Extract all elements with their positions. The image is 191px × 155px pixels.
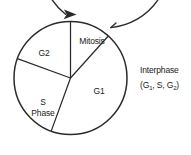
cell-cycle-diagram: Mitosis G1 S Phase G2 Interphase (G1, S,… (0, 0, 191, 155)
interphase-paren-close: ) (176, 80, 179, 90)
label-s-phase-line2: Phase (31, 108, 55, 118)
label-interphase-subphases: (G1, S, G2) (140, 80, 179, 91)
label-g2: G2 (38, 48, 49, 58)
interphase-bracket-arc (41, 0, 169, 28)
label-interphase: Interphase (140, 65, 179, 75)
label-mitosis: Mitosis (79, 36, 104, 46)
label-g1: G1 (93, 86, 104, 96)
interphase-mid: , S, G (152, 80, 173, 90)
divider-sphase-g2 (17, 59, 70, 78)
label-s-phase-line1: S (40, 97, 46, 107)
divider-g1-sphase (51, 78, 70, 131)
cell-cycle-svg: Mitosis G1 S Phase G2 Interphase (G1, S,… (0, 0, 191, 155)
interphase-paren-open: (G (140, 80, 149, 90)
